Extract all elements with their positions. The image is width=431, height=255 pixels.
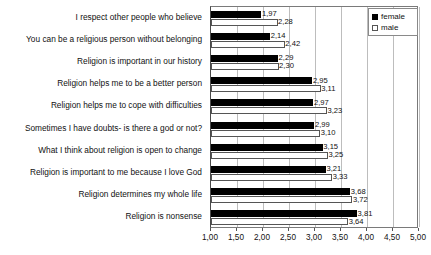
category-label: Religion determines my whole life (0, 190, 202, 199)
filled-square-icon (372, 14, 378, 20)
bar-male: 3,23 (211, 107, 327, 114)
bar-female: 2,29 (211, 55, 278, 62)
open-square-icon (372, 25, 378, 31)
axis-tick-mark (288, 228, 289, 231)
bar-value-label: 2,14 (271, 32, 286, 40)
bar-value-label: 2,42 (285, 40, 300, 48)
axis-tick-label: 1,00 (202, 233, 218, 242)
bar-female: 1,97 (211, 11, 261, 18)
bar-male: 3,72 (211, 196, 352, 203)
bar-male: 2,28 (211, 19, 278, 26)
bar-value-label: 3,25 (329, 151, 344, 159)
category-label: Religion helps me to be a better person (0, 79, 202, 88)
bar-female: 2,97 (211, 99, 313, 106)
category-label: Religion is important in our history (0, 57, 202, 66)
legend-item-female: female (372, 11, 417, 22)
category-axis-labels: I respect other people who believeYou ca… (0, 6, 206, 228)
axis-tick-label: 4,50 (384, 233, 400, 242)
bar-male: 3,25 (211, 152, 328, 159)
bar-value-label: 1,97 (262, 10, 277, 18)
bar-female: 2,95 (211, 77, 312, 84)
axis-tick-mark (392, 228, 393, 231)
axis-tick-mark (366, 228, 367, 231)
category-label: Religion helps me to cope with difficult… (0, 101, 202, 110)
bar-value-label: 2,28 (278, 18, 293, 26)
bar-group: 2,953,11 (211, 74, 417, 96)
bar-male: 2,30 (211, 63, 279, 70)
category-label: Sometimes I have doubts- is there a god … (0, 124, 202, 133)
bar-male: 3,10 (211, 130, 320, 137)
bar-value-label: 3,33 (333, 173, 348, 181)
axis-tick-mark (340, 228, 341, 231)
bar-male: 2,42 (211, 41, 285, 48)
bar-female: 3,68 (211, 188, 350, 195)
bar-female: 2,99 (211, 122, 314, 129)
bar-value-label: 3,23 (327, 107, 342, 115)
axis-tick-mark (236, 228, 237, 231)
bar-female: 3,15 (211, 144, 323, 151)
axis-tick-label: 1,50 (228, 233, 244, 242)
axis-tick-label: 3,00 (306, 233, 322, 242)
bar-male: 3,33 (211, 174, 332, 181)
category-label: I respect other people who believe (0, 13, 202, 22)
axis-tick-mark (418, 228, 419, 231)
bar-male: 3,11 (211, 85, 321, 92)
bar-female: 3,81 (211, 210, 357, 217)
axis-tick-mark (314, 228, 315, 231)
bar-group: 3,213,33 (211, 162, 417, 184)
plot-area: 1,972,282,142,422,292,302,953,112,973,23… (210, 6, 418, 228)
axis-tick-mark (262, 228, 263, 231)
category-label: You can be a religious person without be… (0, 35, 202, 44)
bar-group: 3,153,25 (211, 140, 417, 162)
x-axis: 1,001,502,002,503,003,504,004,505,00 (210, 228, 418, 252)
axis-tick-label: 5,00 (410, 233, 426, 242)
axis-tick-label: 2,50 (280, 233, 296, 242)
bar-group: 2,292,30 (211, 51, 417, 73)
category-label: Religion is important to me because I lo… (0, 168, 202, 177)
bar-female: 2,14 (211, 33, 270, 40)
category-label: Religion is nonsense (0, 212, 202, 221)
bar-male: 3,64 (211, 218, 348, 225)
bar-female: 3,21 (211, 166, 326, 173)
bar-value-label: 2,30 (279, 62, 294, 70)
axis-tick-label: 2,00 (254, 233, 270, 242)
horizontal-bar-chart: I respect other people who believeYou ca… (0, 0, 431, 255)
legend-label: female (381, 12, 405, 21)
axis-tick-mark (210, 228, 211, 231)
axis-tick-label: 3,50 (332, 233, 348, 242)
bar-group: 3,813,64 (211, 207, 417, 229)
legend: femalemale (368, 8, 418, 36)
legend-item-male: male (372, 22, 417, 33)
bar-value-label: 3,10 (321, 129, 336, 137)
bar-value-label: 3,11 (321, 85, 335, 93)
legend-label: male (381, 23, 398, 32)
bar-group: 3,683,72 (211, 185, 417, 207)
category-label: What I think about religion is open to c… (0, 146, 202, 155)
bar-group: 2,973,23 (211, 96, 417, 118)
bar-value-label: 3,64 (349, 218, 364, 226)
axis-tick-label: 4,00 (358, 233, 374, 242)
bar-value-label: 3,72 (353, 196, 368, 204)
gridline (419, 7, 420, 227)
bar-group: 2,993,10 (211, 118, 417, 140)
